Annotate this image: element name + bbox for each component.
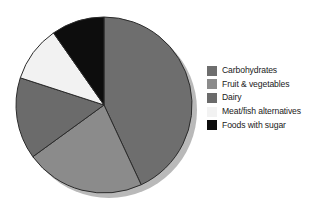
legend-item-label: Meat/fish alternatives [222,107,301,116]
legend-item-fruit-vegetables[interactable]: Fruit & vegetables [207,78,332,92]
legend-item-label: Carbohydrates [222,66,277,75]
legend-swatch-icon [207,79,217,89]
pie-slices [16,17,192,193]
legend-swatch-icon [207,107,217,117]
legend-item-label: Fruit & vegetables [222,80,289,89]
pie-svg [0,0,210,208]
legend-swatch-icon [207,66,217,76]
legend-item-meat-fish-alternatives[interactable]: Meat/fish alternatives [207,105,332,119]
legend-item-foods-with-sugar[interactable]: Foods with sugar [207,118,332,132]
legend-item-label: Foods with sugar [222,121,286,130]
legend-item-dairy[interactable]: Dairy [207,91,332,105]
pie-plot-area [0,0,210,208]
legend-swatch-icon [207,93,217,103]
pie-chart-figure: Carbohydrates Fruit & vegetables Dairy M… [0,0,332,208]
legend-swatch-icon [207,120,217,130]
legend-item-carbohydrates[interactable]: Carbohydrates [207,64,332,78]
legend-item-label: Dairy [222,93,242,102]
chart-legend: Carbohydrates Fruit & vegetables Dairy M… [207,64,332,132]
